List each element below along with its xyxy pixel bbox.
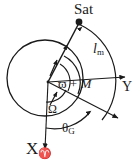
orbital-geometry-figure: Sat lm Y ϖ + M Ω θG X♈ <box>0 0 137 163</box>
x-axis-label: X♈ <box>26 140 52 159</box>
greenwich-angle-subscript: G <box>68 126 75 136</box>
x-axis-symbol: X <box>26 139 38 158</box>
satellite-label: Sat <box>74 2 93 17</box>
aries-icon: ♈ <box>38 147 52 159</box>
raan-arc <box>46 90 66 102</box>
raan-label: Ω <box>48 103 57 115</box>
mean-anomaly-symbol: M <box>80 76 91 91</box>
arc-length-label: lm <box>93 42 104 57</box>
argument-plus-anomaly-label: ϖ + M <box>58 77 91 90</box>
lm-arc <box>80 25 116 121</box>
satellite-radius-line <box>48 23 79 82</box>
y-axis-label: Y <box>122 80 132 94</box>
origin-point <box>47 81 50 84</box>
satellite-point <box>76 19 83 26</box>
arc-length-subscript: m <box>97 47 104 57</box>
greenwich-angle-label: θG <box>62 121 75 136</box>
argument-plus-anomaly-prefix: ϖ + <box>58 76 80 91</box>
